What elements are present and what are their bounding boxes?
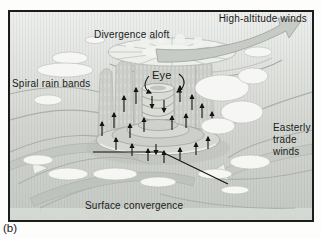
hurricane-diagram-art xyxy=(10,12,312,220)
label-divergence-aloft: Divergence aloft xyxy=(94,29,169,40)
label-high-altitude-winds: High-altitude winds xyxy=(219,13,307,24)
label-easterly-trade-winds-line3: winds xyxy=(273,146,311,158)
label-easterly-trade-winds-line1: Easterly xyxy=(273,122,311,134)
diagram-frame: High-altitude winds Divergence aloft Eye… xyxy=(8,10,314,222)
figure-caption: (b) xyxy=(3,222,17,234)
label-easterly-trade-winds-line2: trade xyxy=(273,134,311,146)
label-easterly-trade-winds: Easterly trade winds xyxy=(273,122,311,158)
label-eye: Eye xyxy=(152,69,172,81)
figure-hurricane-cross-section: High-altitude winds Divergence aloft Eye… xyxy=(0,0,321,238)
label-surface-convergence: Surface convergence xyxy=(85,200,183,211)
eye-column xyxy=(142,84,174,121)
label-spiral-rain-bands: Spiral rain bands xyxy=(12,78,90,89)
